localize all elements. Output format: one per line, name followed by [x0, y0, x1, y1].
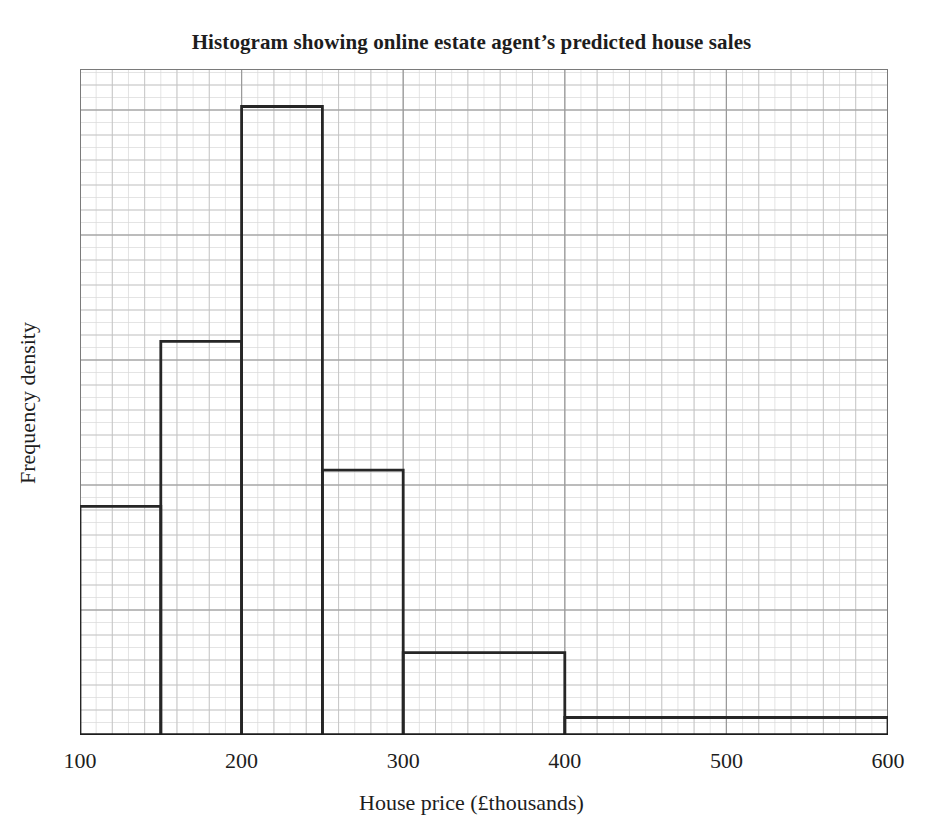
minor-gridlines — [80, 69, 888, 735]
plot-area — [80, 69, 888, 735]
grid-and-bars — [80, 69, 888, 735]
histogram-figure: Histogram showing online estate agent’s … — [0, 0, 943, 832]
x-tick-label: 200 — [207, 748, 277, 774]
histogram-bar — [161, 341, 242, 735]
x-axis-label: House price (£thousands) — [0, 790, 943, 816]
x-tick-label: 100 — [45, 748, 115, 774]
histogram-bar — [242, 106, 323, 735]
x-tick-label: 400 — [530, 748, 600, 774]
histogram-bar — [80, 506, 161, 735]
x-tick-label: 500 — [691, 748, 761, 774]
y-axis-label: Frequency density — [15, 303, 41, 503]
x-tick-label: 300 — [368, 748, 438, 774]
x-tick-label: 600 — [853, 748, 923, 774]
chart-title: Histogram showing online estate agent’s … — [0, 30, 943, 55]
